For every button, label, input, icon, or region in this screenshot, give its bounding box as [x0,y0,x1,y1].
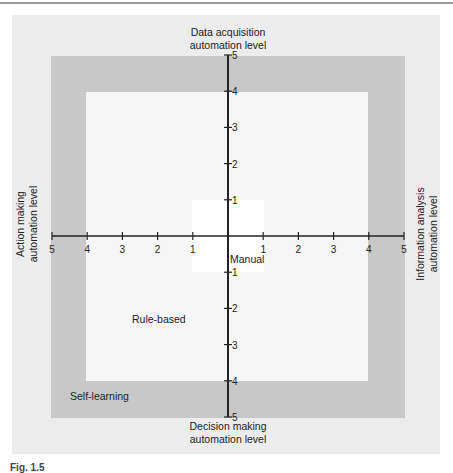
right-axis-title: Information analysis automation level [414,169,442,299]
tick-label-right-4: 4 [366,244,372,255]
tick-label-top-4: 4 [232,86,238,97]
top-axis-title-line2: automation level [160,39,296,52]
left-axis-title-line2: automation level [27,164,40,284]
tick-label-left-5: 5 [49,244,55,255]
right-axis-title-line2: automation level [427,169,440,299]
tick-label-right-5: 5 [401,244,407,255]
tick-label-right-3: 3 [331,244,337,255]
tick-label-bottom-4: 4 [232,376,238,387]
tick-label-left-2: 2 [155,244,161,255]
tick-label-left-4: 4 [84,244,90,255]
tick-label-right-2: 2 [296,244,302,255]
manual-label: Manual [230,253,264,266]
figure-caption: Fig. 1.5 [10,462,44,473]
tick-label-bottom-3: 3 [232,340,238,351]
tick-label-left-1: 1 [190,244,196,255]
left-axis-title-line1: Action making [14,164,27,284]
tick-label-top-1: 1 [232,195,238,206]
axes-group: 11112222333344445555 [49,50,407,423]
tick-label-bottom-2: 2 [232,303,238,314]
bottom-axis-title: Decision making automation level [160,420,296,446]
self-learning-label: Self-learning [70,390,129,403]
top-axis-title-line1: Data acquisition [160,26,296,39]
bottom-axis-title-line2: automation level [160,433,296,446]
tick-label-top-2: 2 [232,159,238,170]
tick-label-bottom-1: 1 [232,267,238,278]
tick-label-left-3: 3 [120,244,126,255]
left-axis-title: Action making automation level [14,164,42,284]
right-axis-title-line1: Information analysis [414,169,427,299]
top-axis-title: Data acquisition automation level [160,26,296,52]
rule-based-label: Rule-based [132,313,186,326]
tick-label-top-3: 3 [232,122,238,133]
bottom-axis-title-line1: Decision making [160,420,296,433]
